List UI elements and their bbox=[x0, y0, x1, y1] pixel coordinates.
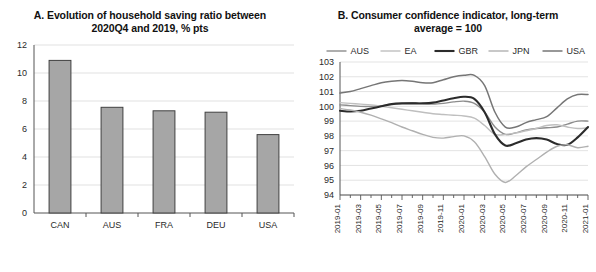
legend-label-ea: EA bbox=[405, 46, 417, 56]
bar-fra bbox=[153, 111, 175, 213]
legend-label-gbr: GBR bbox=[459, 46, 479, 56]
y-axis-tick-label: 102 bbox=[319, 72, 334, 82]
legend-label-jpn: JPN bbox=[513, 46, 530, 56]
bar-deu bbox=[205, 112, 227, 213]
y-axis-tick-label: 6 bbox=[22, 124, 27, 134]
x-axis-tick-label: 2019-11 bbox=[436, 203, 445, 232]
x-axis-tick-label: 2020-05 bbox=[498, 203, 507, 233]
category-label-fra: FRA bbox=[155, 220, 173, 230]
x-axis-tick-label: 2020-01 bbox=[457, 203, 466, 233]
panel-b-title-line2: average = 100 bbox=[300, 22, 596, 35]
y-axis-tick-label: 4 bbox=[22, 152, 27, 162]
x-axis-tick-label: 2019-01 bbox=[333, 203, 342, 233]
figure-root: A. Evolution of household saving ratio b… bbox=[0, 0, 596, 272]
category-label-usa: USA bbox=[259, 220, 278, 230]
y-axis-tick-label: 96 bbox=[324, 161, 334, 171]
y-axis-tick-label: 101 bbox=[319, 87, 334, 97]
panel-a-title-line2: 2020Q4 and 2019, % pts bbox=[0, 22, 300, 35]
y-axis-tick-label: 95 bbox=[324, 175, 334, 185]
y-axis-tick-label: 99 bbox=[324, 116, 334, 126]
x-axis-tick-label: 2019-05 bbox=[374, 203, 383, 233]
y-axis-tick-label: 12 bbox=[17, 40, 27, 50]
x-axis-tick-label: 2019-07 bbox=[395, 203, 404, 233]
bar-aus bbox=[101, 107, 123, 213]
x-axis-tick-label: 2020-03 bbox=[478, 203, 487, 233]
y-axis-tick-label: 10 bbox=[17, 68, 27, 78]
x-axis-tick-label: 2020-11 bbox=[560, 203, 569, 232]
x-axis-tick-label: 2020-07 bbox=[519, 203, 528, 233]
panel-b-title: B. Consumer confidence indicator, long-t… bbox=[300, 0, 596, 35]
category-label-deu: DEU bbox=[206, 220, 225, 230]
legend-label-usa: USA bbox=[567, 46, 586, 56]
line-series-jpn bbox=[340, 109, 588, 183]
x-axis-tick-label: 2019-03 bbox=[354, 203, 363, 233]
panel-a-plot: 024681012CANAUSFRADEUUSA bbox=[0, 35, 300, 260]
y-axis-tick-label: 100 bbox=[319, 102, 334, 112]
category-label-aus: AUS bbox=[103, 220, 122, 230]
bar-can bbox=[49, 60, 71, 213]
y-axis-tick-label: 2 bbox=[22, 180, 27, 190]
line-chart-svg: AUSEAGBRJPNUSA94959697989910010110210320… bbox=[300, 35, 596, 265]
legend-label-aus: AUS bbox=[351, 46, 370, 56]
x-axis-tick-label: 2019-09 bbox=[416, 203, 425, 233]
panel-b-consumer-confidence: B. Consumer confidence indicator, long-t… bbox=[300, 0, 596, 272]
y-axis-tick-label: 103 bbox=[319, 57, 334, 67]
y-axis-tick-label: 0 bbox=[22, 208, 27, 218]
y-axis-tick-label: 98 bbox=[324, 131, 334, 141]
y-axis-tick-label: 8 bbox=[22, 96, 27, 106]
category-label-can: CAN bbox=[50, 220, 69, 230]
x-axis-tick-label: 2021-01 bbox=[581, 203, 590, 233]
panel-a-household-saving-ratio: A. Evolution of household saving ratio b… bbox=[0, 0, 300, 272]
y-axis-tick-label: 94 bbox=[324, 190, 334, 200]
y-axis-tick-label: 97 bbox=[324, 146, 334, 156]
panel-a-title-line1: A. Evolution of household saving ratio b… bbox=[0, 9, 300, 22]
panel-b-plot: AUSEAGBRJPNUSA94959697989910010110210320… bbox=[300, 35, 596, 265]
panel-a-title: A. Evolution of household saving ratio b… bbox=[0, 0, 300, 35]
panel-b-title-line1: B. Consumer confidence indicator, long-t… bbox=[300, 9, 596, 22]
x-axis-tick-label: 2020-09 bbox=[540, 203, 549, 233]
bar-usa bbox=[257, 135, 279, 213]
bar-chart-svg: 024681012CANAUSFRADEUUSA bbox=[0, 35, 300, 260]
